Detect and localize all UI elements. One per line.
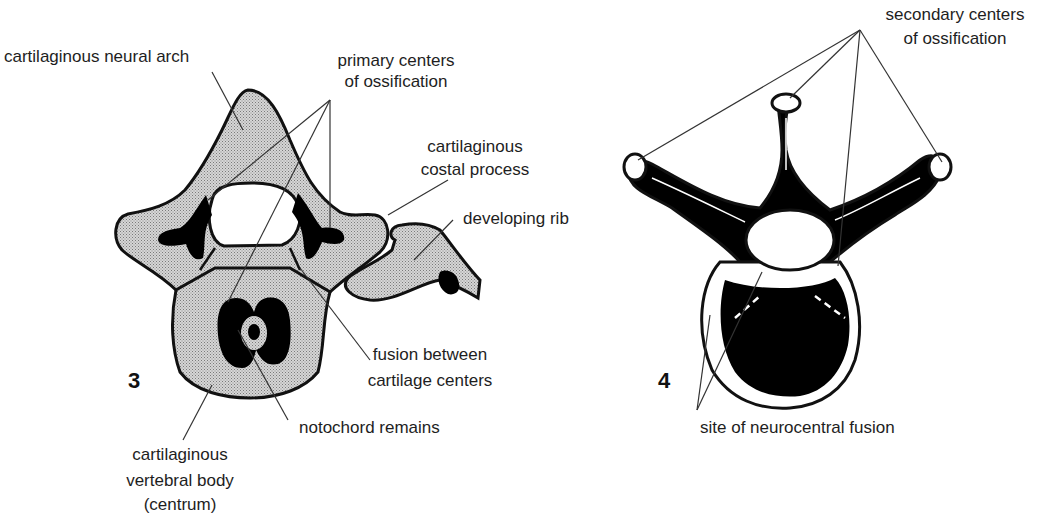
label-primary-centers-line1: primary centers xyxy=(326,50,466,71)
figure-number-3: 3 xyxy=(128,368,140,394)
diagram-artwork xyxy=(0,0,1053,514)
label-notochord-remains: notochord remains xyxy=(299,417,440,438)
label-fusion-line2: cartilage centers xyxy=(355,370,505,391)
label-fusion-line1: fusion between xyxy=(355,344,505,365)
figure-number-4: 4 xyxy=(658,368,670,394)
label-costal-process-line2: costal process xyxy=(405,159,545,180)
vertebral-foramen xyxy=(209,183,300,246)
label-secondary-centers-line1: secondary centers xyxy=(860,4,1050,25)
secondary-center-spinous xyxy=(772,94,800,112)
label-cartilaginous-neural-arch: cartilaginous neural arch xyxy=(4,46,189,67)
label-developing-rib: developing rib xyxy=(463,208,569,229)
figure-4-ossified-vertebra xyxy=(624,94,951,408)
vertebra-ossification-diagram: cartilaginous neural arch primary center… xyxy=(0,0,1053,514)
label-neurocentral-fusion: site of neurocentral fusion xyxy=(700,417,895,438)
label-secondary-centers-line2: of ossification xyxy=(860,28,1050,49)
vertebral-foramen-4 xyxy=(746,210,834,270)
label-costal-process-line1: cartilaginous xyxy=(405,136,545,157)
label-vertebral-body-line2: vertebral body xyxy=(110,470,250,491)
label-vertebral-body-line1: cartilaginous xyxy=(110,444,250,465)
label-vertebral-body-line3: (centrum) xyxy=(110,494,250,514)
label-primary-centers-line2: of ossification xyxy=(326,71,466,92)
